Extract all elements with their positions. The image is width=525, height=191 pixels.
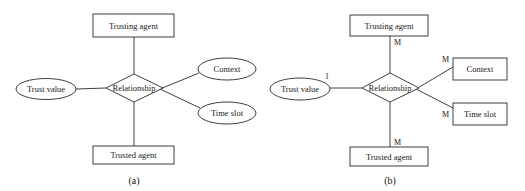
caption-a: (a) xyxy=(128,175,139,187)
label-relationship-b: Relationship xyxy=(369,83,412,93)
edge-context-b xyxy=(416,67,453,89)
label-context-b: Context xyxy=(467,64,495,74)
edge-trust-value-a xyxy=(76,88,106,89)
label-trust-value-a: Trust value xyxy=(27,84,65,94)
cardinality-trusted-agent-b: M xyxy=(394,138,401,147)
edge-time-slot-b xyxy=(416,89,453,108)
cardinality-time-slot-b: M xyxy=(442,110,449,119)
label-relationship-a: Relationship xyxy=(113,83,156,93)
label-trust-value-b: Trust value xyxy=(281,84,319,94)
label-time-slot-b: Time slot xyxy=(464,109,497,119)
cardinality-trust-value-b: 1 xyxy=(325,72,329,81)
label-trusting-agent-b: Trusting agent xyxy=(364,21,414,31)
edge-context-a xyxy=(160,73,199,89)
label-trusted-agent-b: Trusted agent xyxy=(366,152,413,162)
diagram-a: Trusting agent Relationship Trust value … xyxy=(16,14,256,187)
figure: Trusting agent Relationship Trust value … xyxy=(0,0,525,191)
diagram-b: Trusting agent M Relationship Trust valu… xyxy=(270,15,507,187)
label-trusted-agent-a: Trusted agent xyxy=(110,150,157,160)
label-trusting-agent-a: Trusting agent xyxy=(109,21,159,31)
caption-b: (b) xyxy=(384,175,396,187)
label-time-slot-a: Time slot xyxy=(211,108,244,118)
label-context-a: Context xyxy=(214,64,242,74)
cardinality-trusting-agent-b: M xyxy=(394,38,401,47)
cardinality-context-b: M xyxy=(442,55,449,64)
edge-time-slot-a xyxy=(160,89,200,108)
